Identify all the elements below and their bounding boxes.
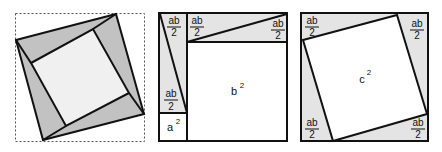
svg-text:2: 2 <box>176 117 181 126</box>
pythagorean-proof-diagram: ab 2 ab 2 ab 2 ab 2 a 2 b 2 <box>0 0 442 152</box>
svg-text:2: 2 <box>415 129 421 140</box>
svg-text:ab: ab <box>306 117 318 128</box>
svg-text:2: 2 <box>309 129 315 140</box>
svg-text:b: b <box>231 85 237 97</box>
svg-text:ab: ab <box>306 15 318 26</box>
svg-text:2: 2 <box>171 27 177 38</box>
svg-text:2: 2 <box>414 30 420 41</box>
svg-text:2: 2 <box>367 68 372 77</box>
svg-text:2: 2 <box>309 27 315 38</box>
svg-text:2: 2 <box>275 30 281 41</box>
svg-text:ab: ab <box>411 18 423 29</box>
svg-text:ab: ab <box>272 18 284 29</box>
panel-c2: ab 2 ab 2 ab 2 ab 2 c 2 <box>301 13 428 141</box>
svg-text:ab: ab <box>168 15 180 26</box>
panel-rotated-squares <box>16 14 145 142</box>
svg-text:2: 2 <box>168 101 174 112</box>
svg-text:2: 2 <box>194 27 200 38</box>
svg-text:a: a <box>167 121 174 133</box>
svg-text:2: 2 <box>240 81 245 90</box>
svg-text:c: c <box>359 73 365 85</box>
svg-text:ab: ab <box>165 88 177 99</box>
panel-a2-b2: ab 2 ab 2 ab 2 ab 2 a 2 b 2 <box>159 13 287 141</box>
svg-text:ab: ab <box>412 117 424 128</box>
svg-text:ab: ab <box>191 15 203 26</box>
